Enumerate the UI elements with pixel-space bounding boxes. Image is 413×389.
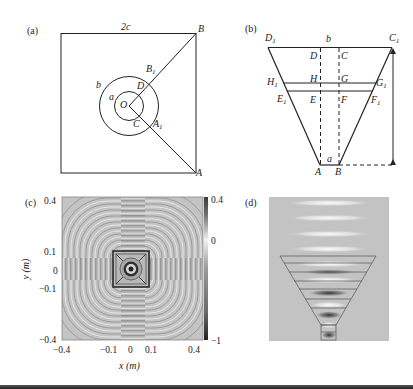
panel-d-field-image — [0, 0, 413, 389]
bottom-rule — [0, 385, 413, 389]
